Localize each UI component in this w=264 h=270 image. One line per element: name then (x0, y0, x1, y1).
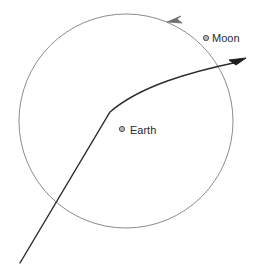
earth-body-marker (119, 126, 124, 131)
diagram-canvas: Earth Moon (0, 0, 264, 270)
moon-orbit-circle (19, 14, 233, 228)
orbit-direction-arrow-icon (167, 16, 182, 23)
lunar-trajectory-diagram: Earth Moon (0, 0, 264, 270)
moon-label: Moon (212, 32, 240, 44)
earth-label: Earth (130, 124, 156, 136)
moon-body-marker (203, 35, 208, 40)
spacecraft-trajectory-path (20, 62, 238, 263)
